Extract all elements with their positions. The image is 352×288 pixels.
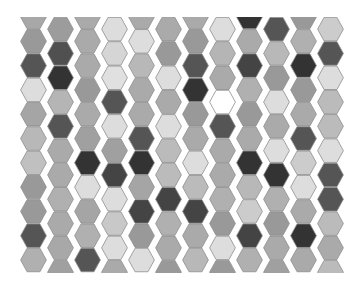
hex-cell[interactable] bbox=[48, 236, 74, 260]
hex-cell[interactable] bbox=[183, 175, 209, 199]
hex-cell[interactable] bbox=[156, 212, 182, 236]
hex-cell[interactable] bbox=[75, 200, 101, 224]
hex-cell[interactable] bbox=[183, 54, 209, 78]
hex-cell[interactable] bbox=[48, 188, 74, 212]
hex-cell[interactable] bbox=[129, 248, 155, 272]
hex-cell[interactable] bbox=[318, 66, 344, 90]
hex-cell[interactable] bbox=[183, 78, 209, 102]
hex-cell[interactable] bbox=[21, 200, 47, 224]
hex-cell[interactable] bbox=[264, 115, 290, 139]
hex-cell[interactable] bbox=[129, 200, 155, 224]
hex-cell[interactable] bbox=[156, 188, 182, 212]
hex-cell[interactable] bbox=[48, 66, 74, 90]
hex-cell[interactable] bbox=[237, 175, 263, 199]
hex-cell[interactable] bbox=[264, 163, 290, 187]
hex-cell[interactable] bbox=[48, 260, 74, 284]
hex-cell[interactable] bbox=[156, 260, 182, 284]
hex-cell[interactable] bbox=[102, 90, 128, 114]
hex-cell[interactable] bbox=[183, 200, 209, 224]
hex-cell[interactable] bbox=[21, 5, 47, 29]
hex-cell[interactable] bbox=[75, 102, 101, 126]
hex-cell[interactable] bbox=[129, 78, 155, 102]
hex-cell[interactable] bbox=[156, 163, 182, 187]
hex-cell[interactable] bbox=[75, 224, 101, 248]
hex-cell[interactable] bbox=[210, 90, 236, 114]
hex-cell[interactable] bbox=[291, 5, 317, 29]
hex-cell[interactable] bbox=[102, 188, 128, 212]
hex-cell[interactable] bbox=[210, 17, 236, 41]
hex-cell[interactable] bbox=[21, 151, 47, 175]
hex-cell[interactable] bbox=[21, 78, 47, 102]
hex-cell[interactable] bbox=[21, 175, 47, 199]
hex-cell[interactable] bbox=[237, 54, 263, 78]
hex-cell[interactable] bbox=[210, 42, 236, 65]
hex-cell[interactable] bbox=[102, 260, 128, 284]
hex-cell[interactable] bbox=[291, 224, 317, 248]
hex-cell[interactable] bbox=[48, 17, 74, 41]
hex-cell[interactable] bbox=[48, 42, 74, 65]
hex-cell[interactable] bbox=[48, 163, 74, 187]
hex-cell[interactable] bbox=[183, 102, 209, 126]
hex-cell[interactable] bbox=[156, 90, 182, 114]
hex-cell[interactable] bbox=[21, 54, 47, 78]
hex-cell[interactable] bbox=[21, 224, 47, 248]
hex-cell[interactable] bbox=[318, 236, 344, 260]
hex-cell[interactable] bbox=[318, 212, 344, 236]
hex-cell[interactable] bbox=[183, 151, 209, 175]
hex-cell[interactable] bbox=[237, 78, 263, 102]
hex-cell[interactable] bbox=[183, 248, 209, 272]
hex-cell[interactable] bbox=[75, 30, 101, 54]
hex-cell[interactable] bbox=[156, 139, 182, 163]
hex-cell[interactable] bbox=[318, 188, 344, 212]
hex-cell[interactable] bbox=[210, 139, 236, 163]
hex-cell[interactable] bbox=[102, 66, 128, 90]
hex-cell[interactable] bbox=[102, 42, 128, 65]
hex-cell[interactable] bbox=[156, 115, 182, 139]
hex-cell[interactable] bbox=[291, 54, 317, 78]
hex-cell[interactable] bbox=[291, 78, 317, 102]
hex-cell[interactable] bbox=[183, 224, 209, 248]
hex-cell[interactable] bbox=[21, 127, 47, 151]
hex-cell[interactable] bbox=[318, 115, 344, 139]
hex-cell[interactable] bbox=[210, 260, 236, 284]
hex-cell[interactable] bbox=[102, 17, 128, 41]
hex-cell[interactable] bbox=[156, 17, 182, 41]
hex-cell[interactable] bbox=[318, 139, 344, 163]
hex-cell[interactable] bbox=[264, 66, 290, 90]
hex-cell[interactable] bbox=[318, 163, 344, 187]
hex-cell[interactable] bbox=[291, 200, 317, 224]
hex-cell[interactable] bbox=[264, 236, 290, 260]
hex-cell[interactable] bbox=[237, 200, 263, 224]
hex-cell[interactable] bbox=[48, 139, 74, 163]
hex-cell[interactable] bbox=[75, 151, 101, 175]
hex-cell[interactable] bbox=[264, 260, 290, 284]
hex-cell[interactable] bbox=[291, 127, 317, 151]
hex-cell[interactable] bbox=[237, 151, 263, 175]
hex-cell[interactable] bbox=[129, 102, 155, 126]
hex-cell[interactable] bbox=[129, 127, 155, 151]
hex-cell[interactable] bbox=[264, 90, 290, 114]
hex-cell[interactable] bbox=[129, 54, 155, 78]
hex-cell[interactable] bbox=[48, 115, 74, 139]
hex-cell[interactable] bbox=[102, 212, 128, 236]
hex-cell[interactable] bbox=[210, 163, 236, 187]
hex-cell[interactable] bbox=[318, 260, 344, 284]
hex-cell[interactable] bbox=[156, 236, 182, 260]
hex-cell[interactable] bbox=[210, 115, 236, 139]
hex-cell[interactable] bbox=[291, 102, 317, 126]
hex-cell[interactable] bbox=[75, 5, 101, 29]
hex-cell[interactable] bbox=[102, 236, 128, 260]
hex-cell[interactable] bbox=[102, 139, 128, 163]
hex-cell[interactable] bbox=[237, 5, 263, 29]
hex-cell[interactable] bbox=[318, 42, 344, 65]
hex-cell[interactable] bbox=[183, 30, 209, 54]
hex-cell[interactable] bbox=[48, 212, 74, 236]
hex-cell[interactable] bbox=[156, 42, 182, 65]
hex-cell[interactable] bbox=[21, 102, 47, 126]
hex-cell[interactable] bbox=[75, 175, 101, 199]
hex-cell[interactable] bbox=[210, 66, 236, 90]
hex-cell[interactable] bbox=[237, 102, 263, 126]
hex-cell[interactable] bbox=[264, 139, 290, 163]
hex-cell[interactable] bbox=[129, 30, 155, 54]
hex-cell[interactable] bbox=[291, 30, 317, 54]
